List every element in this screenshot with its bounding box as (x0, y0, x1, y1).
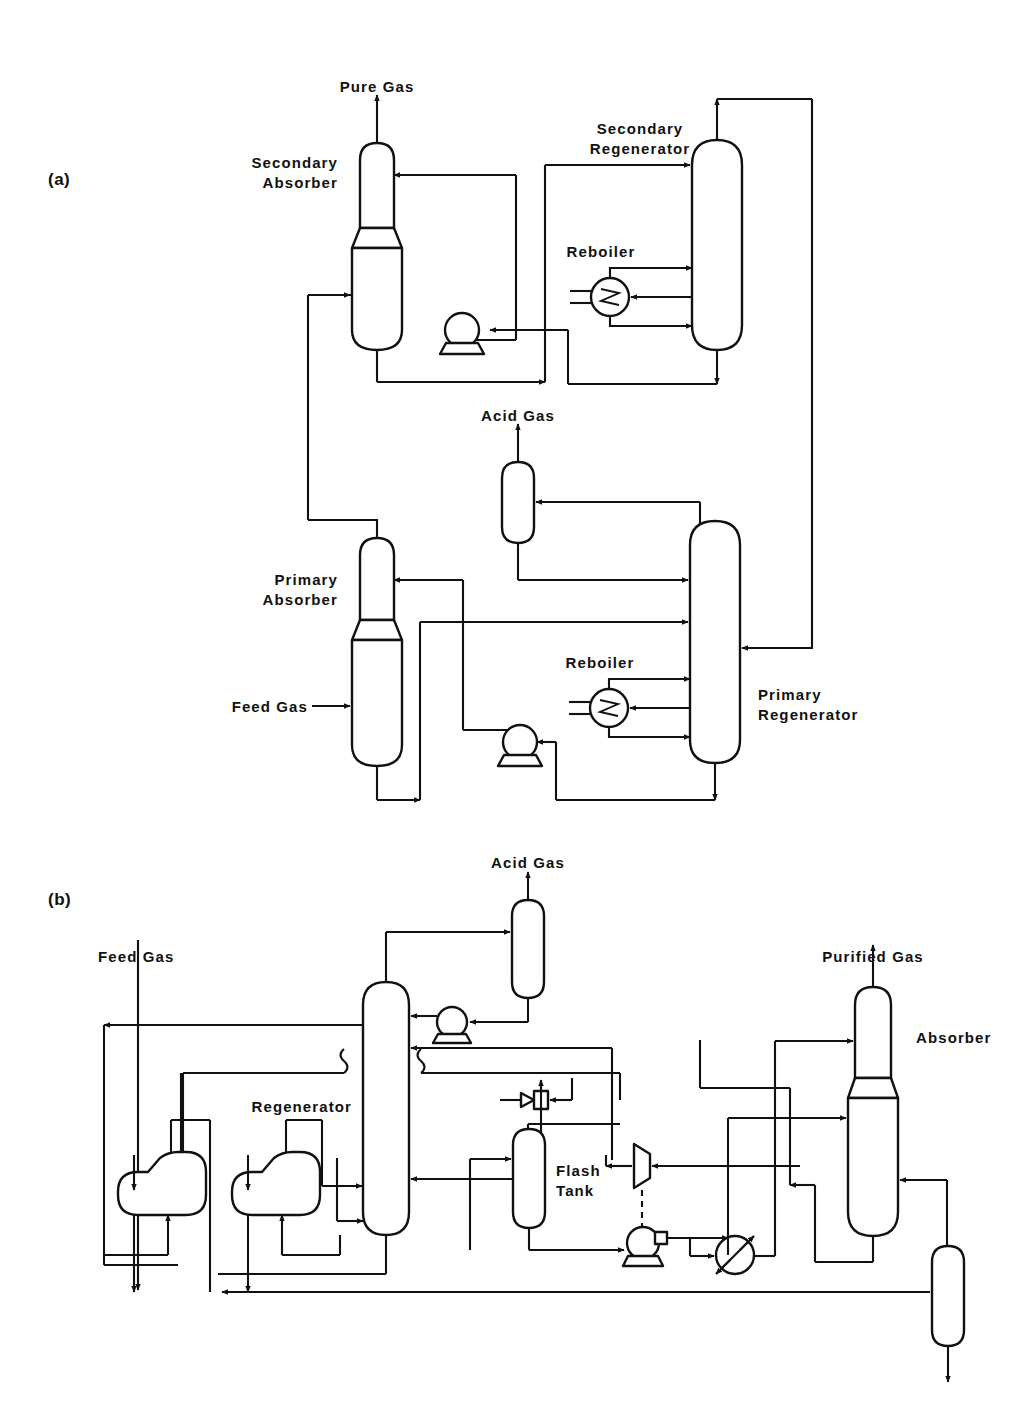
sec-loop-to-prim-regen (742, 620, 812, 648)
secondary-regenerator-label-l1: Secondary (597, 120, 684, 137)
flowsheet-canvas: (a) Pure Gas Acid Gas Feed Gas Secondary… (0, 0, 1016, 1409)
feed-gas-label-a: Feed Gas (232, 698, 308, 715)
primary-reboiler[interactable] (590, 689, 628, 727)
secondary-regenerator-label-l2: Regenerator (590, 140, 690, 157)
acid-gas-knockout-drum-a[interactable] (502, 462, 534, 543)
primary-regenerator-label-l2: Regenerator (758, 706, 858, 723)
secondary-absorber-label-l2: Absorber (263, 174, 338, 191)
primary-absorber-label-l2: Absorber (263, 591, 338, 608)
cooler-b[interactable] (716, 1236, 754, 1274)
primary-absorber-label-l1: Primary (274, 571, 338, 588)
flash-tank-label-l1: Flash (556, 1162, 601, 1179)
secondary-pump[interactable] (440, 313, 484, 354)
absorber-label-b: Absorber (916, 1029, 991, 1046)
primary-pump[interactable] (498, 725, 542, 766)
primary-reboiler-label: Reboiler (566, 654, 635, 671)
reflux-pump-b[interactable] (433, 1007, 471, 1043)
heat-exchanger-left-b[interactable] (118, 1152, 206, 1215)
panel-b-group: (b) Feed Gas Acid Gas Purified Gas Regen… (48, 854, 991, 1382)
secondary-reboiler-label: Reboiler (567, 243, 636, 260)
flash-tank-pump-b[interactable] (623, 1227, 667, 1266)
panel-b-label: (b) (48, 890, 71, 909)
secondary-absorber-label-l1: Secondary (251, 154, 338, 171)
acid-gas-label-b: Acid Gas (491, 854, 565, 871)
sec-reb-vapor-return (610, 268, 692, 278)
secondary-reboiler[interactable] (591, 278, 629, 316)
process-flow-figure: (a) Pure Gas Acid Gas Feed Gas Secondary… (0, 0, 1016, 1409)
sec-reb-return-lower (610, 316, 692, 326)
heat-exchanger-right-b[interactable] (232, 1152, 320, 1215)
control-valve-b[interactable] (521, 1091, 548, 1109)
acid-gas-knockout-drum-b[interactable] (512, 900, 544, 998)
prim-reb-vapor-return (609, 679, 690, 689)
line-hop-left (341, 1049, 348, 1073)
feed-gas-label-b: Feed Gas (98, 948, 174, 965)
secondary-regenerator[interactable] (692, 140, 742, 350)
primary-regenerator[interactable] (690, 521, 740, 763)
purified-gas-label-b: Purified Gas (822, 948, 924, 965)
flash-tank-b[interactable] (513, 1129, 545, 1228)
panel-a-label: (a) (48, 170, 70, 189)
hydraulic-turbine-b[interactable] (634, 1144, 650, 1188)
primary-absorber[interactable] (352, 538, 402, 766)
regenerator-label-b: Regenerator (252, 1098, 352, 1115)
line-hop-right (418, 1049, 425, 1073)
primary-regenerator-label-l1: Primary (758, 686, 822, 703)
absorber-b[interactable] (848, 987, 898, 1236)
panel-a-group: (a) Pure Gas Acid Gas Feed Gas Secondary… (48, 78, 858, 800)
acid-gas-label-a: Acid Gas (481, 407, 555, 424)
pure-gas-label: Pure Gas (340, 78, 415, 95)
bottom-separator-drum-b[interactable] (932, 1246, 964, 1346)
regenerator-b[interactable] (363, 982, 409, 1235)
flash-tank-label-l2: Tank (556, 1182, 594, 1199)
prim-reb-return-lower (609, 727, 690, 737)
